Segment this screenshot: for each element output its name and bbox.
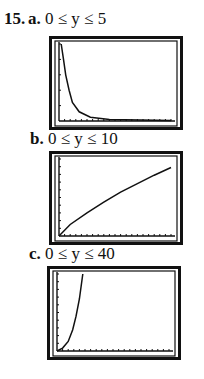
graph-b (49, 151, 183, 245)
part-a-label: a. 0 ≤ y ≤ 5 (28, 10, 106, 28)
part-c-label: c. 0 ≤ y ≤ 40 (29, 245, 115, 263)
part-b-label: b. 0 ≤ y ≤ 10 (30, 130, 118, 148)
part-c-range: 0 ≤ y ≤ 40 (45, 244, 115, 263)
problem-number: 15. (4, 9, 25, 28)
graph-c (47, 266, 181, 360)
part-a-range: 0 ≤ y ≤ 5 (45, 9, 106, 28)
graph-a (49, 36, 183, 130)
part-a-letter: a. (28, 9, 41, 28)
part-b-letter: b. (30, 129, 44, 148)
part-c-letter: c. (29, 244, 41, 263)
problem-label: 15. (4, 10, 25, 28)
part-b-range: 0 ≤ y ≤ 10 (48, 129, 118, 148)
